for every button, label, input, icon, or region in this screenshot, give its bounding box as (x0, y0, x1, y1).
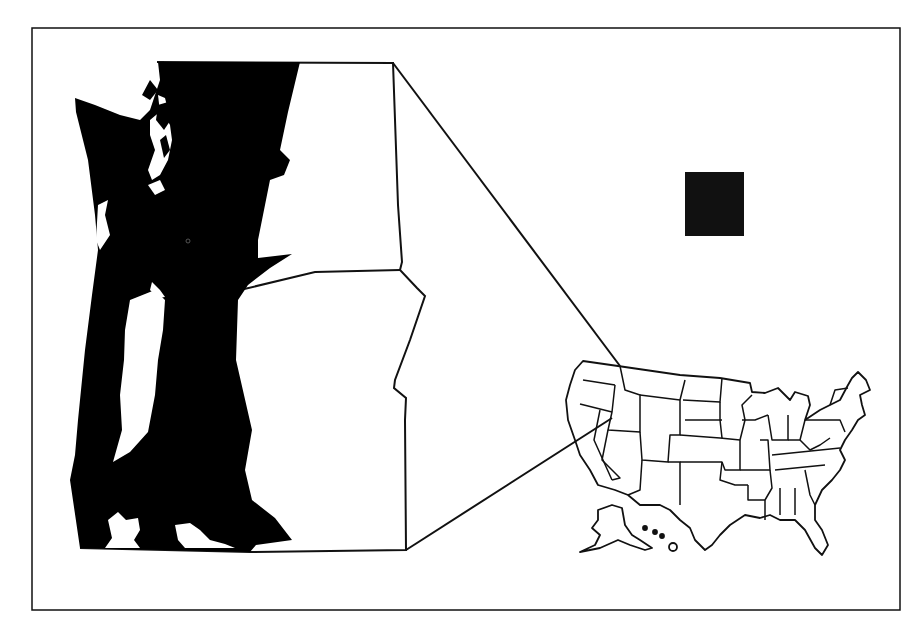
alaska-outline (580, 505, 652, 552)
inset-map (70, 62, 425, 552)
usa-state-borders (580, 366, 848, 520)
inset-boundary-line (240, 270, 400, 290)
usa-locator-map (566, 361, 870, 555)
connector-line-bottom (406, 418, 612, 550)
usa-outline (566, 361, 870, 555)
inset-land-area (70, 62, 300, 552)
connector-line-top (393, 63, 620, 366)
legend-square-symbol (685, 172, 744, 236)
map-figure (0, 0, 921, 636)
hawaii-islands (643, 526, 677, 551)
connector-lines (393, 63, 620, 550)
